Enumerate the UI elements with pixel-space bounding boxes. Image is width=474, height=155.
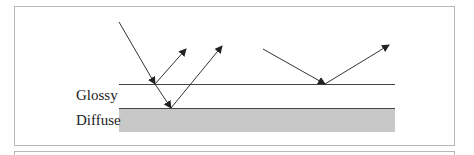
reflection-diagram — [0, 0, 474, 155]
glossy-reflection-arrow-left — [155, 49, 186, 84]
diffuse-reflection-arrow — [171, 46, 222, 108]
diffuse-label: Diffuse — [76, 113, 121, 128]
incident-ray-left-upper — [119, 22, 155, 84]
incident-ray-right — [263, 49, 325, 84]
refracted-ray-left — [155, 84, 171, 108]
glossy-label: Glossy — [76, 88, 118, 103]
specular-reflection-arrow-right — [325, 45, 389, 84]
diffuse-layer — [119, 108, 395, 132]
